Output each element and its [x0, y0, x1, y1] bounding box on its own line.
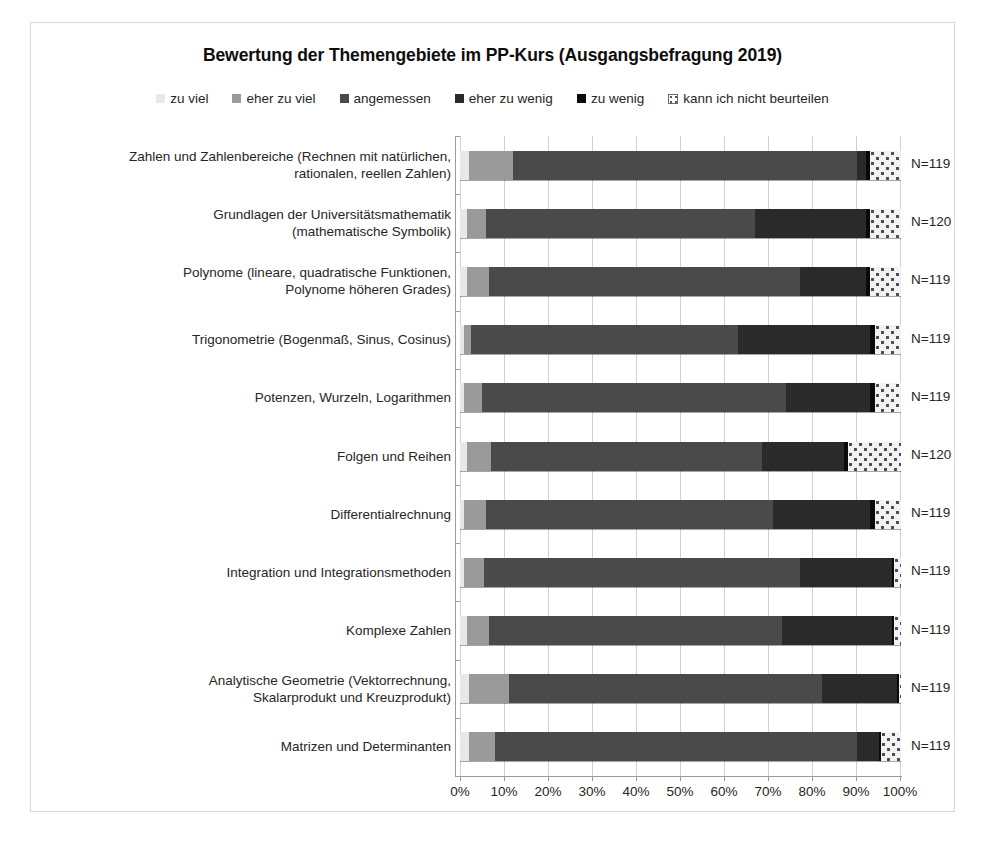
- sample-size-label: N=119: [911, 389, 950, 404]
- bar-segment: [489, 267, 800, 296]
- x-tick-label: 10%: [490, 784, 517, 799]
- bar-segment: [486, 500, 773, 529]
- legend-swatch-icon: [232, 94, 241, 103]
- category-label: Integration und Integrationsmethoden: [39, 564, 451, 581]
- legend-item-angemessen: angemessen: [340, 91, 431, 106]
- bar-segment: [464, 500, 486, 529]
- y-axis-line: [455, 136, 456, 776]
- legend-swatch-hatch-icon: [668, 94, 678, 104]
- stacked-bar: [460, 732, 901, 761]
- category-label: Folgen und Reihen: [39, 448, 451, 465]
- bar-segment: [800, 267, 866, 296]
- bar-segment: [773, 500, 870, 529]
- bar-segment: [460, 267, 467, 296]
- stacked-bar: [460, 616, 901, 645]
- stacked-bar: [460, 383, 901, 412]
- bar-segment: [894, 558, 901, 587]
- bar-segment: [894, 616, 901, 645]
- x-axis-tick: [548, 776, 549, 781]
- legend-item-kann-ich-nicht-beurteilen: kann ich nicht beurteilen: [668, 91, 829, 106]
- bar-segment: [464, 558, 485, 587]
- sample-size-label: N=119: [911, 272, 950, 287]
- category-label: Zahlen und Zahlenbereiche (Rechnen mit n…: [39, 148, 451, 182]
- bar-segment: [469, 151, 513, 180]
- x-tick-label: 80%: [798, 784, 825, 799]
- plot-area: Zahlen und Zahlenbereiche (Rechnen mit n…: [31, 128, 954, 811]
- x-tick-label: 30%: [578, 784, 605, 799]
- category-label: Komplexe Zahlen: [39, 622, 451, 639]
- category-label: Analytische Geometrie (Vektorrechnung,Sk…: [39, 672, 451, 706]
- bar-segment: [467, 209, 487, 238]
- x-tick-label: 60%: [710, 784, 737, 799]
- bar-segment: [467, 442, 491, 471]
- sample-size-label: N=120: [911, 214, 951, 229]
- legend-swatch-icon: [340, 94, 349, 103]
- x-tick-label: 20%: [534, 784, 561, 799]
- sample-size-label: N=119: [911, 563, 950, 578]
- bar-segment: [482, 383, 786, 412]
- bar-segment: [899, 674, 901, 703]
- x-axis-tick: [460, 776, 461, 781]
- x-axis-tick: [900, 776, 901, 781]
- sample-size-label: N=119: [911, 331, 950, 346]
- legend-item-zu-wenig: zu wenig: [577, 91, 644, 106]
- bar-segment: [469, 732, 495, 761]
- category-label: Differentialrechnung: [39, 506, 451, 523]
- bar-segment: [460, 674, 469, 703]
- legend-label: kann ich nicht beurteilen: [683, 91, 829, 106]
- category-label: Potenzen, Wurzeln, Logarithmen: [39, 389, 451, 406]
- bar-segment: [881, 732, 901, 761]
- bar-segment: [471, 325, 738, 354]
- bar-segment: [464, 325, 471, 354]
- sample-size-label: N=119: [911, 738, 950, 753]
- x-axis-tick: [680, 776, 681, 781]
- x-axis-tick: [812, 776, 813, 781]
- stacked-bar: [460, 674, 901, 703]
- bar-segment: [513, 151, 857, 180]
- stacked-bar: [460, 325, 901, 354]
- bar-segment: [467, 267, 489, 296]
- x-axis-tick: [856, 776, 857, 781]
- x-axis-tick: [724, 776, 725, 781]
- bar-segment: [857, 151, 866, 180]
- bar-segment: [460, 732, 469, 761]
- bar-segment: [875, 383, 901, 412]
- x-tick-label: 70%: [754, 784, 781, 799]
- bar-segment: [738, 325, 870, 354]
- legend-label: zu wenig: [591, 91, 644, 106]
- x-axis-tick: [768, 776, 769, 781]
- chart-title: Bewertung der Themengebiete im PP-Kurs (…: [31, 45, 954, 66]
- bar-segment: [489, 616, 782, 645]
- bar-segment: [469, 674, 509, 703]
- x-tick-label: 0%: [450, 784, 470, 799]
- sample-size-label: N=119: [911, 505, 950, 520]
- bar-segment: [509, 674, 822, 703]
- bar-segment: [875, 500, 901, 529]
- category-label: Grundlagen der Universitätsmathematik(ma…: [39, 206, 451, 240]
- legend-swatch-icon: [577, 94, 586, 103]
- bar-segment: [484, 558, 799, 587]
- legend-label: eher zu wenig: [469, 91, 553, 106]
- bar-segment: [460, 209, 467, 238]
- legend-item-zu-viel: zu viel: [156, 91, 208, 106]
- stacked-bar: [460, 151, 901, 180]
- bar-segment: [460, 442, 467, 471]
- x-tick-label: 50%: [666, 784, 693, 799]
- bar-segment: [491, 442, 762, 471]
- stacked-bar: [460, 558, 901, 587]
- bar-segment: [755, 209, 865, 238]
- bar-segment: [870, 151, 901, 180]
- y-axis-tick: [455, 776, 460, 777]
- bar-segment: [467, 616, 489, 645]
- bar-segment: [800, 558, 893, 587]
- category-label: Polynome (lineare, quadratische Funktion…: [39, 264, 451, 298]
- bar-segment: [848, 442, 901, 471]
- bar-segment: [495, 732, 857, 761]
- legend-swatch-icon: [156, 94, 165, 103]
- bar-segment: [464, 383, 482, 412]
- x-axis-line: [460, 776, 902, 777]
- legend-label: eher zu viel: [246, 91, 315, 106]
- category-label: Trigonometrie (Bogenmaß, Sinus, Cosinus): [39, 331, 451, 348]
- stacked-bar: [460, 209, 901, 238]
- x-tick-label: 100%: [883, 784, 918, 799]
